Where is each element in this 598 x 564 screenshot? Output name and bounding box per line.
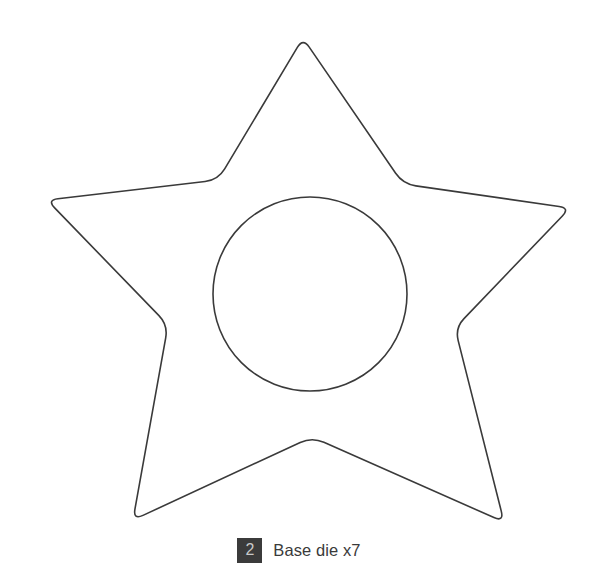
star-outline-path: [52, 43, 566, 519]
caption: 2 Base die x7: [0, 534, 598, 564]
inner-circle-path: [213, 197, 407, 391]
star-diagram: [0, 0, 598, 564]
diagram-canvas: 2 Base die x7: [0, 0, 598, 564]
caption-label: Base die x7: [273, 541, 360, 560]
step-number-badge: 2: [237, 538, 262, 563]
